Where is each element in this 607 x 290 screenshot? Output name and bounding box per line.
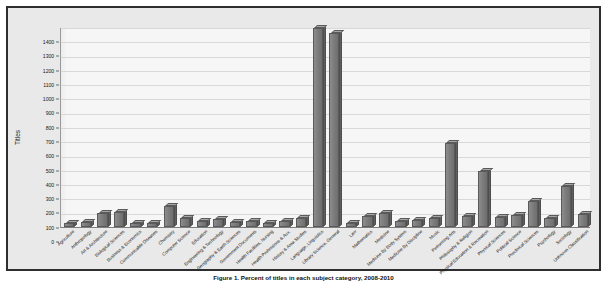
- bar: [197, 221, 207, 227]
- bar-top: [66, 220, 80, 223]
- bar: [578, 214, 588, 227]
- bar-top: [181, 215, 195, 218]
- bar-face: [528, 201, 538, 227]
- bar: [445, 143, 455, 227]
- bar-face: [445, 143, 455, 227]
- bar: [147, 223, 157, 227]
- bar: [213, 219, 223, 227]
- bar: [561, 186, 571, 227]
- figure-page: Titles 010020030040050060070080090010001…: [0, 0, 607, 290]
- bar-side: [389, 211, 392, 227]
- x-tick-label: Law: [348, 229, 357, 238]
- y-tick-label: 200: [46, 210, 54, 216]
- bar-face: [279, 221, 289, 227]
- y-tick-label: 700: [46, 139, 54, 145]
- bar: [246, 221, 256, 227]
- bar: [114, 212, 124, 227]
- y-tick-label: 500: [46, 168, 54, 174]
- bar-side: [538, 199, 541, 227]
- bar-face: [329, 33, 339, 227]
- bar-face: [197, 221, 207, 227]
- y-tick-mark: [56, 184, 59, 185]
- bar-face: [578, 214, 588, 227]
- bar: [64, 223, 74, 227]
- bar: [313, 28, 323, 227]
- y-tick-label: 100: [46, 225, 54, 231]
- bar-face: [114, 212, 124, 227]
- bar-face: [313, 28, 323, 227]
- y-tick-label: 1300: [43, 53, 54, 59]
- y-tick-label: 1100: [43, 82, 54, 88]
- bar: [544, 218, 554, 227]
- bar: [329, 33, 339, 227]
- bar-side: [174, 203, 177, 227]
- bar: [462, 216, 472, 227]
- bar: [279, 221, 289, 227]
- bar: [412, 220, 422, 227]
- bar-face: [213, 219, 223, 227]
- y-tick-mark: [56, 56, 59, 57]
- y-tick-mark: [56, 213, 59, 214]
- y-tick-label: 0: [51, 239, 54, 245]
- bar-face: [130, 223, 140, 227]
- plot-region: [60, 28, 590, 228]
- bar: [528, 201, 538, 227]
- y-tick-label: 400: [46, 182, 54, 188]
- y-tick-label: 800: [46, 125, 54, 131]
- bar: [164, 206, 174, 227]
- y-tick-mark: [56, 113, 59, 114]
- bar-face: [263, 223, 273, 227]
- bar-top: [446, 140, 460, 143]
- bar-face: [164, 206, 174, 227]
- bar: [395, 221, 405, 227]
- y-tick-label: 1200: [43, 68, 54, 74]
- bar: [81, 222, 91, 227]
- bar: [263, 223, 273, 227]
- bar: [379, 213, 389, 227]
- bar-face: [246, 221, 256, 227]
- bar-face: [147, 223, 157, 227]
- bar-face: [561, 186, 571, 227]
- bar: [346, 223, 356, 227]
- bar-side: [455, 140, 458, 227]
- y-tick-mark: [56, 170, 59, 171]
- bar-face: [180, 218, 190, 227]
- y-tick-label: 1400: [43, 39, 54, 45]
- chart-area: Titles 010020030040050060070080090010001…: [16, 14, 594, 266]
- bar-face: [412, 220, 422, 227]
- y-tick-mark: [56, 156, 59, 157]
- bar-face: [64, 223, 74, 227]
- bar-top: [215, 216, 229, 219]
- bar: [130, 223, 140, 227]
- bar-side: [323, 26, 326, 227]
- y-tick-mark: [56, 142, 59, 143]
- y-tick-mark: [56, 42, 59, 43]
- y-tick-mark: [56, 99, 59, 100]
- figure-caption: Figure 1. Percent of titles in each subj…: [0, 272, 607, 290]
- bar-face: [495, 217, 505, 227]
- x-tick-label: Music: [428, 229, 440, 240]
- x-tick-label: Preclinical Sciences: [507, 229, 539, 259]
- bar-face: [544, 218, 554, 227]
- y-tick-label: 900: [46, 110, 54, 116]
- y-tick-mark: [56, 199, 59, 200]
- bar-top: [331, 30, 345, 33]
- y-tick-label: 300: [46, 196, 54, 202]
- figure-frame: Titles 010020030040050060070080090010001…: [6, 6, 601, 271]
- bar-face: [230, 222, 240, 227]
- bar-face: [395, 221, 405, 227]
- bar-face: [379, 213, 389, 227]
- bar: [296, 218, 306, 227]
- bar: [97, 213, 107, 227]
- y-tick-mark: [56, 127, 59, 128]
- y-axis-title: Titles: [14, 130, 21, 145]
- y-tick-mark: [56, 227, 59, 228]
- bar-face: [296, 218, 306, 227]
- bar-side: [108, 211, 111, 227]
- bar: [495, 217, 505, 227]
- bar-face: [346, 223, 356, 227]
- bar-face: [511, 215, 521, 227]
- y-tick-mark: [56, 70, 59, 71]
- bar-face: [362, 216, 372, 227]
- bar: [180, 218, 190, 227]
